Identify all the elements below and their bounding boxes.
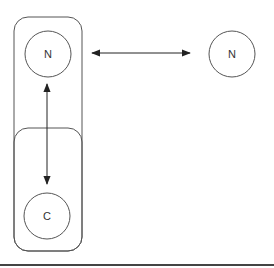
node-c[interactable]: C	[24, 193, 70, 239]
inner-plate	[14, 128, 82, 251]
node-n-right[interactable]: N	[209, 31, 255, 77]
node-n-right-label: N	[228, 48, 236, 60]
node-c-label: C	[43, 210, 51, 222]
node-n-left[interactable]: N	[25, 31, 71, 77]
node-n-left-label: N	[44, 48, 52, 60]
diagram-canvas: N C N	[0, 0, 274, 268]
